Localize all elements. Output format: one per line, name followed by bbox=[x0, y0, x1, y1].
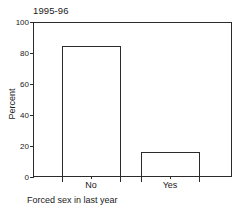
x-tick-mark-2 bbox=[120, 177, 121, 182]
bar-no bbox=[62, 46, 121, 177]
x-tick-center-no bbox=[91, 177, 92, 179]
x-tick-center-yes bbox=[170, 177, 171, 179]
x-tick-label-yes: Yes bbox=[163, 180, 178, 190]
x-axis-title: Forced sex in last year bbox=[27, 195, 118, 205]
bar-yes bbox=[141, 152, 200, 177]
y-tick-label-20: 20 bbox=[0, 142, 29, 151]
chart-title: 1995-96 bbox=[33, 5, 69, 16]
bar-chart-figure: 1995-96 0 20 40 60 80 100 Percent No Yes… bbox=[0, 0, 242, 215]
x-tick-mark-3 bbox=[141, 177, 142, 182]
y-tick-mark-0 bbox=[30, 177, 34, 178]
x-tick-label-no: No bbox=[85, 180, 97, 190]
y-tick-label-100: 100 bbox=[0, 18, 29, 27]
y-axis-title: Percent bbox=[7, 74, 17, 134]
x-tick-mark-1 bbox=[62, 177, 63, 182]
y-tick-label-0: 0 bbox=[0, 173, 29, 182]
x-tick-mark-4 bbox=[199, 177, 200, 182]
y-tick-label-80: 80 bbox=[0, 49, 29, 58]
